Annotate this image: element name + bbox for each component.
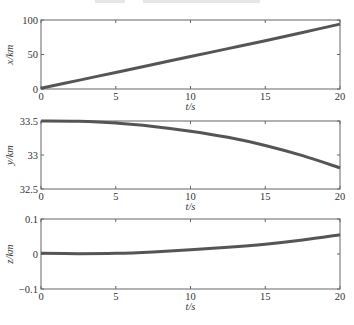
x-tick-label: 0 — [38, 291, 43, 302]
y-axis-label: z/km — [4, 244, 15, 265]
x-tick-label: 20 — [335, 291, 346, 302]
x-axis-label: t/s — [186, 201, 196, 212]
x-tick-label: 15 — [260, 191, 271, 202]
data-line-y — [41, 121, 340, 168]
x-axis-label: t/s — [186, 101, 196, 112]
y-tick-label: 0.1 — [25, 214, 38, 225]
y-tick-label: 50 — [28, 49, 39, 60]
y-tick-label: 32.5 — [20, 184, 38, 195]
y-tick-label: 0 — [33, 84, 38, 95]
x-tick-label: 5 — [113, 91, 118, 102]
x-tick-label: 5 — [113, 291, 118, 302]
x-axis-label: t/s — [186, 301, 196, 312]
y-tick-label: 33 — [28, 150, 39, 161]
y-tick-label: −0.1 — [19, 284, 38, 295]
trajectory-chart: 05101520050100t/sx/km0510152032.53333.5t… — [0, 0, 354, 325]
y-axis-label: y/km — [4, 145, 15, 166]
y-tick-label: 33.5 — [20, 116, 38, 127]
x-tick-label: 15 — [260, 91, 271, 102]
data-line-x — [41, 24, 340, 88]
x-tick-label: 20 — [335, 191, 346, 202]
x-tick-label: 5 — [113, 191, 118, 202]
x-tick-label: 15 — [260, 291, 271, 302]
y-tick-label: 0 — [33, 249, 38, 260]
y-axis-label: x/km — [4, 44, 15, 65]
x-tick-label: 0 — [38, 191, 43, 202]
x-tick-label: 20 — [335, 91, 346, 102]
data-line-z — [41, 235, 340, 254]
y-tick-label: 100 — [22, 15, 38, 26]
x-tick-label: 0 — [38, 91, 43, 102]
